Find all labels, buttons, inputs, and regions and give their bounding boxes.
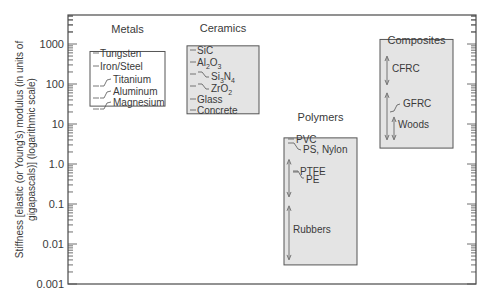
y-axis-label-line: Stiffness [elastic (or Young's) modulus … [14,41,25,259]
group-ceramics: CeramicsSiCAl2O3Si3N4ZrO2GlassConcrete [187,22,259,116]
y-tick-label: 0.1 [49,198,64,210]
entry-label: Rubbers [293,224,331,235]
entry-iron-steel: Iron/Steel [93,61,143,72]
group-title-metals: Metals [111,23,144,35]
entry-label: CFRC [392,63,420,74]
entry-label: Aluminum [113,86,157,97]
y-tick-label: 1.0 [49,158,64,170]
entry-label: SiC [197,45,213,56]
entry-label: GFRC [403,98,431,109]
group-composites: CompositesCFRCGFRCWoods [380,34,453,148]
group-box-composites [380,39,453,148]
entry-label: Magnesium [113,97,165,108]
chart: 0.0010.010.11.0101001000 Stiffness [elas… [0,0,495,307]
entry-label: Iron/Steel [100,61,143,72]
entry-label: Titanium [113,74,151,85]
group-title-polymers: Polymers [298,111,344,123]
entry-label: Woods [398,119,429,130]
y-tick-label: 10 [52,118,64,130]
group-box-polymers [284,138,357,265]
y-tick-label: 0.01 [43,238,64,250]
group-title-composites: Composites [387,34,446,46]
y-axis-label: Stiffness [elastic (or Young's) modulus … [14,41,37,259]
y-tick-label: 1000 [40,38,64,50]
group-metals: MetalsTungstenIron/SteelTitaniumAluminum… [90,23,165,109]
entry-label: PE [306,174,320,185]
entry-label: PS, Nylon [303,144,347,155]
y-tick-label: 0.001 [36,278,64,290]
entry-concrete: Concrete [190,105,238,116]
group-title-ceramics: Ceramics [200,22,247,34]
entry-label: Tungsten [100,48,141,59]
y-tick-label: 100 [46,78,64,90]
y-axis-label-line: gigapascals)] (logarithmic scale) [26,78,37,221]
entry-label: Glass [197,94,223,105]
entry-tungsten: Tungsten [93,48,141,59]
entry-label: Concrete [197,105,238,116]
material-groups: MetalsTungstenIron/SteelTitaniumAluminum… [90,22,453,265]
group-polymers: PolymersPVCPS, NylonPTFEPERubbers [284,111,357,265]
